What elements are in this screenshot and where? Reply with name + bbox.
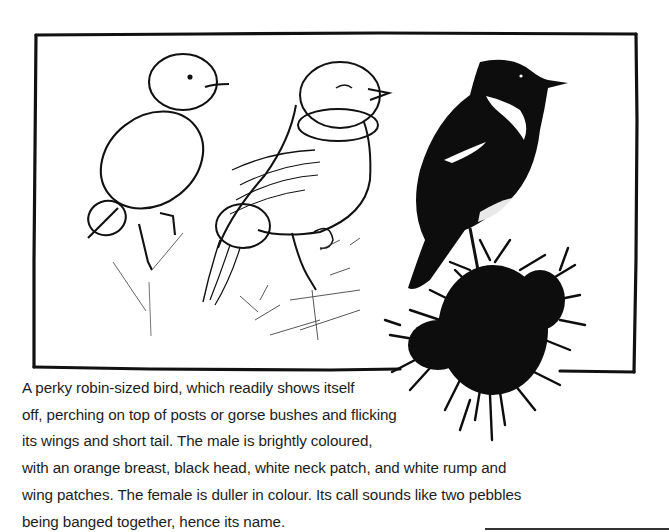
description-line: with an orange breast, black head, white… [22, 455, 662, 482]
step-1-bird [82, 54, 229, 336]
description-line: A perky robin-sized bird, which readily … [22, 375, 662, 402]
step-2-bird [203, 62, 389, 340]
description-line: wing patches. The female is duller in co… [22, 482, 662, 509]
divider-rule [485, 528, 669, 530]
description-line: off, perching on top of posts or gorse b… [22, 402, 662, 429]
species-description: A perky robin-sized bird, which readily … [22, 375, 662, 532]
description-line: its wings and short tail. The male is br… [22, 428, 662, 455]
